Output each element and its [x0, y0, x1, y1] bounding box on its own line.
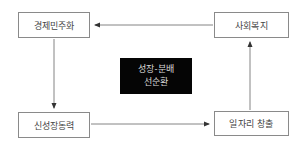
node-social-welfare: 사회복지	[214, 12, 289, 38]
node-economic-democratization: 경제민주화	[18, 12, 90, 38]
center-line-2: 선순환	[144, 76, 168, 89]
center-virtuous-cycle-box: 성장-분배 선순환	[120, 58, 192, 94]
node-new-growth-engine: 신성장동력	[18, 112, 90, 138]
node-label: 신성장동력	[34, 119, 75, 132]
node-label: 사회복지	[235, 19, 268, 32]
node-label: 경제민주화	[34, 19, 75, 32]
center-line-1: 성장-분배	[138, 63, 173, 76]
node-job-creation: 일자리 창출	[214, 111, 289, 136]
node-label: 일자리 창출	[229, 117, 273, 130]
